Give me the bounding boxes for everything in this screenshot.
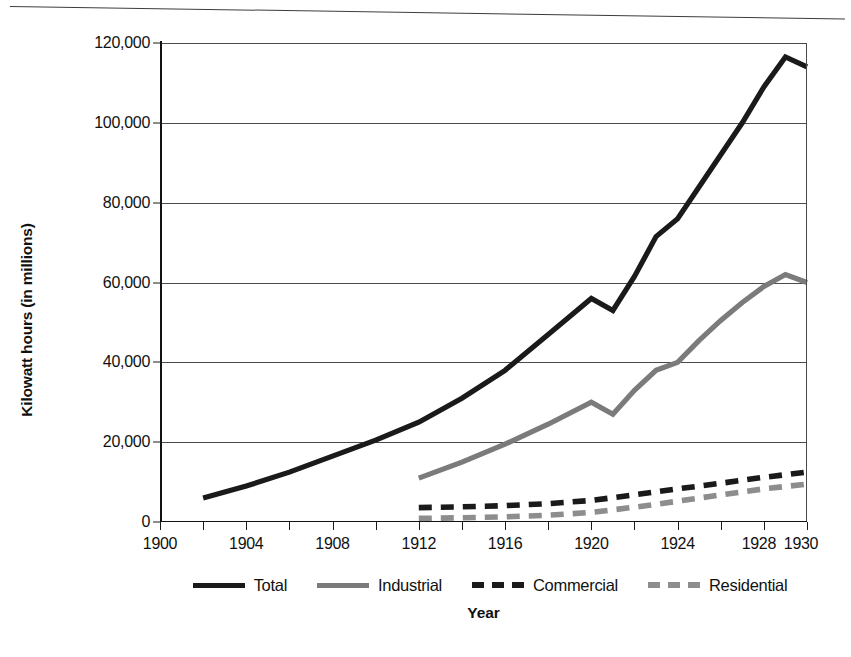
- y-axis-tick-mark: [153, 362, 160, 363]
- y-axis-title: Kilowatt hours (in millions): [10, 120, 44, 520]
- x-axis-tick-label: 1930: [784, 535, 818, 553]
- y-axis-tick-label: 100,000: [94, 114, 150, 132]
- x-axis-tick-mark: [807, 522, 808, 530]
- chart-legend: TotalIndustrialCommercialResidential: [160, 572, 820, 598]
- legend-item-industrial[interactable]: Industrial: [317, 576, 442, 595]
- x-axis-tick-label: 1920: [574, 535, 608, 553]
- x-axis-tick-mark: [505, 522, 506, 530]
- x-axis-tick-mark: [333, 522, 334, 530]
- x-axis-tick-mark: [764, 522, 765, 530]
- x-axis-tick-label: 1908: [315, 535, 349, 553]
- y-axis-tick-mark: [153, 442, 160, 443]
- plot-area: 020,00040,00060,00080,000100,000120,000 …: [160, 43, 807, 522]
- x-axis-tick-mark: [548, 522, 549, 530]
- legend-swatch-residential: [648, 582, 700, 588]
- y-axis-tick-label: 80,000: [103, 194, 150, 212]
- y-axis-tick-label: 60,000: [103, 274, 150, 292]
- x-axis-tick-mark: [462, 522, 463, 530]
- legend-label: Commercial: [533, 576, 618, 595]
- x-axis-tick-mark: [678, 522, 679, 530]
- series-line-residential: [419, 484, 807, 518]
- x-axis-title: Year: [160, 604, 807, 622]
- legend-label: Residential: [709, 576, 787, 595]
- x-axis-spine: [160, 521, 807, 522]
- x-axis-tick-label: 1912: [402, 535, 436, 553]
- x-axis-tick-mark: [591, 522, 592, 530]
- chart-figure: Kilowatt hours (in millions) 020,00040,0…: [0, 0, 851, 657]
- x-axis-tick-mark: [289, 522, 290, 530]
- x-axis-tick-mark: [246, 522, 247, 530]
- x-axis-tick-mark: [160, 522, 161, 530]
- y-axis-tick-mark: [153, 522, 160, 523]
- x-axis-tick-label: 1928: [742, 535, 776, 553]
- x-axis-tick-mark: [419, 522, 420, 530]
- x-axis-tick-label: 1916: [488, 535, 522, 553]
- x-axis-tick-label: 1900: [143, 535, 177, 553]
- legend-swatch-industrial: [317, 583, 369, 588]
- x-axis-tick-label: 1904: [229, 535, 263, 553]
- series-group: [160, 43, 807, 522]
- y-axis-tick-label: 40,000: [103, 353, 150, 371]
- plot-right-border: [806, 43, 807, 522]
- series-line-total: [203, 57, 807, 498]
- x-axis-tick-mark: [376, 522, 377, 530]
- series-line-industrial: [419, 275, 807, 479]
- y-axis-tick-label: 120,000: [94, 34, 150, 52]
- x-axis-tick-mark: [203, 522, 204, 530]
- y-axis-tick-mark: [153, 282, 160, 283]
- x-axis-tick-mark: [634, 522, 635, 530]
- legend-item-total[interactable]: Total: [193, 576, 287, 595]
- y-axis-tick-label: 20,000: [103, 433, 150, 451]
- legend-item-commercial[interactable]: Commercial: [472, 576, 618, 595]
- y-axis-tick-label: 0: [141, 513, 150, 531]
- page-top-rule: [10, 6, 845, 19]
- legend-item-residential[interactable]: Residential: [648, 576, 787, 595]
- y-axis-tick-mark: [153, 122, 160, 123]
- legend-label: Total: [254, 576, 287, 595]
- y-axis-tick-mark: [153, 43, 160, 44]
- y-axis-tick-mark: [153, 202, 160, 203]
- legend-swatch-commercial: [472, 582, 524, 588]
- legend-swatch-total: [193, 583, 245, 588]
- x-axis-tick-mark: [721, 522, 722, 530]
- x-axis-tick-label: 1924: [660, 535, 694, 553]
- y-axis-spine: [160, 41, 162, 522]
- legend-label: Industrial: [378, 576, 442, 595]
